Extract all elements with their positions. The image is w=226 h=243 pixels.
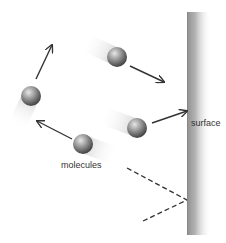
molecule-m3 xyxy=(73,134,93,154)
molecule-m2 xyxy=(107,47,127,67)
molecules-label: molecules xyxy=(61,160,102,170)
dashed-line-incoming xyxy=(127,168,187,200)
velocity-arrow-a4 xyxy=(152,111,187,123)
dashed-line-outgoing xyxy=(143,200,187,221)
molecule-m1 xyxy=(21,86,41,106)
surface-label: surface xyxy=(191,118,221,128)
velocity-arrow-a1 xyxy=(36,45,52,79)
velocity-arrow-a3 xyxy=(37,121,72,139)
velocity-arrow-a2 xyxy=(130,66,164,82)
molecule-m4 xyxy=(127,118,147,138)
